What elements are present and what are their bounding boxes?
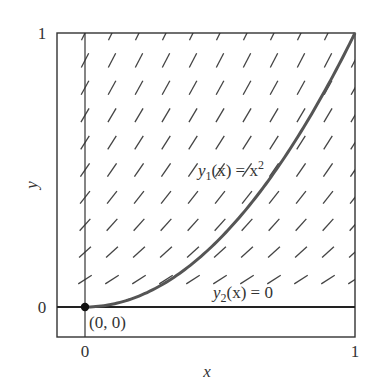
slope-segment [296,191,306,204]
slope-segment [160,247,172,258]
slope-segment [297,108,305,122]
slope-segment [186,275,199,284]
slope-segment [108,136,117,150]
plot-frame [57,33,355,337]
curve-label-y1-base: y [196,161,206,180]
slope-segment [323,191,333,204]
slope-segment [297,53,304,67]
slope-segment [270,108,278,122]
slope-segment [215,219,226,231]
slope-segment [270,136,279,150]
slope-segment [107,163,116,176]
slope-segment [216,53,223,67]
slope-segment [134,191,144,204]
slope-segment [107,191,117,204]
slope-segment [107,219,118,231]
slope-segment [162,136,171,150]
initial-point-dot [81,303,89,311]
slope-segment [187,247,199,258]
slope-segment [214,247,226,258]
slope-segment [162,81,170,95]
curve-label-y1: y1(x) = x2 [196,158,264,183]
slope-segment [215,191,225,204]
slope-segment [189,81,197,95]
slope-segment [188,163,197,176]
slope-segment [270,53,277,67]
slope-segment [216,81,224,95]
direction-field-diagram: 1 0 0 1 x y (0, 0) y1(x) = x2 y2(x) = 0 [0,0,374,392]
curve-label-y2-base: y [211,283,221,302]
slope-segment [216,108,224,122]
slope-segment [216,136,225,150]
slope-segment [241,247,253,258]
curve-label-y1-mid: (x) = x [212,161,259,180]
slope-segment [135,53,142,67]
y-tick-label-1: 1 [38,24,47,43]
slope-segment [189,53,196,67]
slope-segment [270,81,278,95]
slope-segment [242,219,253,231]
slope-segment [243,81,251,95]
slope-segment [134,219,145,231]
x-axis-label: x [202,362,211,381]
slope-segment [135,136,144,150]
slope-segment [161,219,172,231]
slope-segment [189,108,197,122]
slope-segment [134,163,143,176]
slope-segment [294,275,307,284]
slope-segment [243,108,251,122]
slope-segment [189,136,198,150]
slope-segment [161,163,170,176]
slope-segment [135,108,143,122]
curve-label-y1-sup: 2 [258,158,264,172]
slope-segment [323,219,334,231]
slope-segment [188,219,199,231]
slope-segment [188,191,198,204]
slope-segment [322,247,334,258]
y-axis-label: y [22,181,41,191]
slope-field [78,26,361,284]
slope-segment [106,247,118,258]
slope-segment [297,81,305,95]
slope-segment [324,136,333,150]
slope-segment [108,53,115,67]
slope-segment [105,275,118,284]
slope-segment [296,219,307,231]
slope-segment [295,247,307,258]
slope-segment [161,191,171,204]
slope-segment [162,108,170,122]
slope-segment [296,163,305,176]
slope-segment [132,275,145,284]
slope-segment [108,108,116,122]
slope-segment [162,53,169,67]
slope-segment [135,81,143,95]
y-tick-label-0: 0 [38,298,47,317]
slope-segment [133,247,145,258]
slope-segment [269,219,280,231]
slope-segment [268,247,280,258]
slope-segment [324,108,332,122]
curve-label-y2: y2(x) = 0 [211,283,273,305]
initial-point-label: (0, 0) [89,313,126,332]
slope-segment [243,53,250,67]
slope-segment [323,163,332,176]
slope-segment [243,136,252,150]
x-tick-label-1: 1 [351,342,360,361]
slope-segment [324,53,331,67]
x-tick-label-0: 0 [81,342,90,361]
slope-segment [269,191,279,204]
slope-segment [108,81,116,95]
slope-segment [321,275,334,284]
curve-label-y2-mid: (x) = 0 [227,283,273,302]
